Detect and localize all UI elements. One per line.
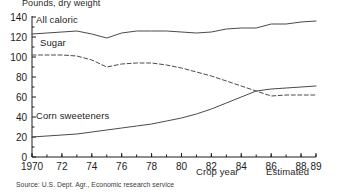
svg-text:120: 120 [10,32,27,43]
svg-text:74: 74 [86,161,98,172]
series-label-sugar: Sugar [40,37,66,48]
svg-text:40: 40 [16,112,28,123]
chart-axes [32,16,316,157]
svg-text:80: 80 [176,161,188,172]
series-label-all-caloric: All caloric [36,14,78,25]
source-note: Source: U.S. Dept. Agr., Economic resear… [16,181,174,188]
svg-text:80: 80 [16,72,28,83]
svg-text:78: 78 [146,161,158,172]
svg-text:20: 20 [16,132,28,143]
svg-text:100: 100 [10,52,27,63]
estimated-annotation: Estimated [266,166,309,177]
chart-figure: Pounds, dry weight 020406080100120140197… [0,0,337,195]
svg-text:60: 60 [16,92,28,103]
svg-text:1970: 1970 [21,161,44,172]
series-label-corn-sweeteners: Corn sweeteners [36,110,109,121]
svg-text:76: 76 [116,161,128,172]
x-axis-title: Crop year [196,166,239,177]
svg-text:89: 89 [310,161,322,172]
svg-text:72: 72 [56,161,68,172]
svg-text:140: 140 [10,12,27,23]
chart-tick-labels: 0204060801001201401970727476788082848688… [10,12,322,172]
